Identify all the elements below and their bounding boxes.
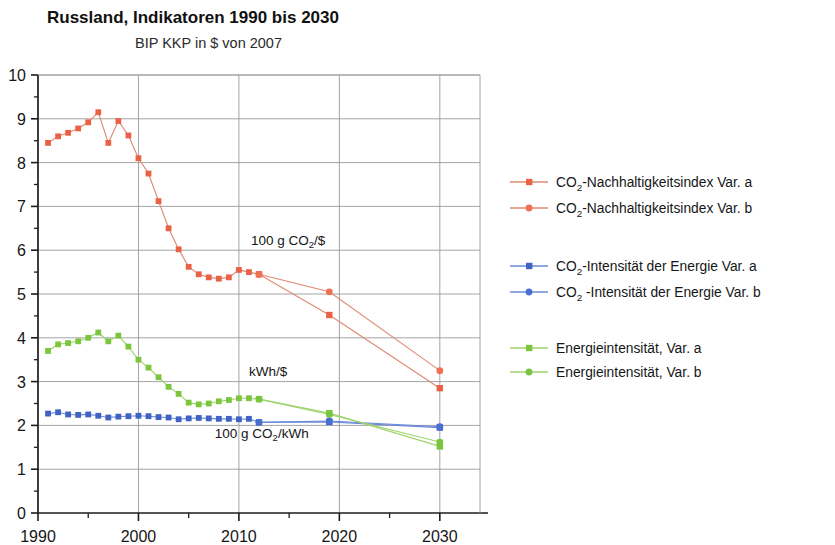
data-point [206,274,212,280]
data-point [186,400,192,406]
data-point [226,397,232,403]
data-point [105,415,111,421]
x-tick-label: 2020 [322,528,358,545]
y-tick-label: 2 [17,417,26,434]
data-point [236,395,242,401]
annotation-text: 100 g CO2/$ [251,233,326,251]
data-point [55,409,61,415]
x-tick-label: 1990 [20,528,56,545]
data-point [256,271,263,278]
page-title: Russland, Indikatoren 1990 bis 2030 [47,8,339,27]
data-point [216,276,222,282]
data-point [236,416,242,422]
data-point [196,415,202,421]
data-point [85,335,91,341]
data-point [115,118,121,124]
data-point [85,119,91,125]
y-tick-label: 9 [17,111,26,128]
legend-marker-circle-icon [526,205,533,212]
data-point [436,439,443,446]
data-point [166,225,172,231]
data-point [65,412,71,418]
data-point [45,411,51,417]
data-point [95,330,101,336]
data-point [126,133,132,139]
indicators-line-chart: Russland, Indikatoren 1990 bis 2030 BIP … [0,0,835,545]
legend-label: CO2-Nachhaltigkeitsindex Var. a [556,175,752,193]
legend-marker-circle-icon [526,369,533,376]
data-point [156,198,162,204]
data-point [326,418,333,425]
data-point [45,140,51,146]
legend-marker-square-icon [526,263,532,269]
data-point [236,267,242,273]
data-point [75,126,81,132]
data-point [115,414,121,420]
data-point [166,415,172,421]
data-point [75,412,81,418]
data-point [216,398,222,404]
y-tick-label: 7 [17,198,26,215]
data-point [146,365,152,371]
data-point [436,367,443,374]
legend-marker-square-icon [526,179,532,185]
data-point [176,416,182,422]
data-point [437,385,443,391]
annotation-co2-per-dollar: 100 g CO2/$ [251,233,326,251]
y-tick-label: 10 [8,67,26,84]
data-point [45,348,51,354]
data-point [156,374,162,380]
data-point [186,264,192,270]
data-point [176,391,182,397]
data-point [146,413,152,419]
legend-label: CO2 -Intensität der Energie Var. b [556,285,761,303]
data-point [126,413,132,419]
data-point [436,423,443,430]
data-point [196,401,202,407]
chart-subtitle: BIP KKP in $ von 2007 [135,35,282,51]
annotation-co2-per-kwh: 100 g CO2/kWh [215,426,309,444]
data-point [326,312,332,318]
data-point [115,333,121,339]
data-point [226,274,232,280]
legend-label: Energieintensität, Var. a [556,341,702,356]
data-point [136,413,142,419]
data-point [95,109,101,115]
annotation-kwh-per-dollar: kWh/$ [249,364,288,379]
y-tick-label: 1 [17,461,26,478]
data-point [176,246,182,252]
legend-label: Energieintensität, Var. b [556,365,702,380]
data-point [146,171,152,177]
data-point [246,395,252,401]
data-point [95,413,101,419]
data-point [126,344,132,350]
x-tick-label: 2010 [221,528,257,545]
y-tick-label: 0 [17,505,26,522]
data-point [105,140,111,146]
data-point [206,401,212,407]
data-point [216,416,222,422]
data-point [75,338,81,344]
annotation-text: 100 g CO2/kWh [215,426,309,444]
y-tick-label: 4 [17,330,26,347]
data-point [206,415,212,421]
data-point [55,341,61,347]
y-tick-label: 6 [17,242,26,259]
data-point [136,357,142,363]
legend-label: CO2-Intensität der Energie Var. a [556,259,757,277]
data-point [196,271,202,277]
x-tick-label: 2000 [121,528,157,545]
y-tick-label: 3 [17,374,26,391]
legend-marker-square-icon [526,345,532,351]
y-tick-label: 8 [17,155,26,172]
data-point [256,396,263,403]
data-point [136,155,142,161]
data-point [105,338,111,344]
annotation-text: kWh/$ [249,364,288,379]
data-point [186,415,192,421]
data-point [65,340,71,346]
data-point [246,416,252,422]
data-point [246,269,252,275]
data-point [55,133,61,139]
x-tick-label: 2030 [422,528,458,545]
